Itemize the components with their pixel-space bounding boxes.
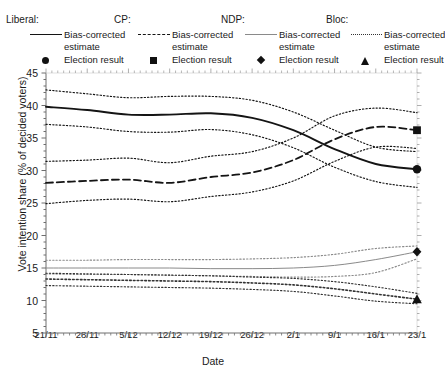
estimate-line [46,127,417,183]
legend-key-diamond-marker-icon [243,54,279,65]
chart-canvas [0,66,426,382]
election-result-marker-circle [413,165,421,173]
legend-key-dashed-line-icon [136,29,172,40]
legend-key-triangle-marker-icon [348,54,384,65]
legend-label-cp-estimate: Bias-corrected estimate [172,29,233,52]
confidence-band-lower [46,124,417,187]
legend-label-cp-election: Election result [172,54,232,66]
confidence-band-upper [46,108,417,163]
chart-plot-area: Vote intention share (% of decided voter… [0,66,426,382]
confidence-band-upper [46,90,417,152]
legend-title-ndp: NDP: [221,14,245,25]
legend-key-solid-line-icon [28,29,64,40]
legend-label-ndp-election: Election result [279,54,339,66]
legend-entry-bloc-estimate: Bias-corrected estimate [348,29,430,52]
legend-key-dotted-line-icon [348,29,384,40]
legend-label-bloc-election: Election result [384,54,444,66]
legend-key-circle-marker-icon [28,54,64,65]
legend-label-liberal-election: Election result [64,54,124,66]
legend-entry-ndp-estimate: Bias-corrected estimate [243,29,331,52]
legend-title-liberal: Liberal: [6,14,39,25]
election-result-marker-square [413,126,421,134]
legend-entry-liberal-estimate: Bias-corrected estimate [28,29,116,52]
legend-label-ndp-estimate: Bias-corrected estimate [279,29,340,52]
chart-legend: Liberal: Bias-corrected estimate Electio… [0,0,426,72]
series-liberal [46,90,421,187]
confidence-band-lower [46,286,417,304]
confidence-band-upper [46,273,417,293]
estimate-line [46,107,417,169]
estimate-line [46,279,417,299]
legend-key-square-marker-icon [136,54,172,65]
election-result-marker-diamond [413,247,422,257]
series-bloc [46,273,422,304]
legend-label-liberal-estimate: Bias-corrected estimate [64,29,125,52]
legend-title-bloc: Bloc: [326,14,348,25]
legend-key-thin-line-icon [243,29,279,40]
legend-label-bloc-estimate: Bias-corrected estimate [384,29,445,52]
series-ndp [46,246,421,277]
confidence-band-upper [46,246,417,260]
legend-title-cp: CP: [114,14,131,25]
legend-entry-cp-estimate: Bias-corrected estimate [136,29,224,52]
series-cp [46,108,421,204]
